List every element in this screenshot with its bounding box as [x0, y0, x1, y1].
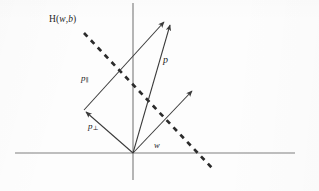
- vector-p-parallel-label-base: p: [81, 73, 86, 83]
- vector-p-perpendicular-label: p⊥: [88, 122, 99, 131]
- vector-w-label: w: [154, 141, 160, 150]
- axes-group: [15, 3, 295, 180]
- hyperplane-label-suffix: ): [73, 14, 76, 24]
- hyperplane-label-prefix: H(: [49, 14, 59, 24]
- vector-p-parallel-label: p∥: [81, 74, 89, 83]
- vector-p-perpendicular-label-subscript: ⊥: [93, 125, 99, 131]
- figure-canvas: [0, 0, 319, 191]
- vector-p-perpendicular: [86, 112, 133, 153]
- vector-p-perpendicular-label-base: p: [88, 121, 93, 131]
- vector-p-parallel-label-subscript: ∥: [86, 77, 89, 83]
- vector-p-parallel: [84, 22, 164, 110]
- vector-p-label: p: [163, 55, 168, 65]
- hyperplane-label: H(w,b): [49, 15, 76, 25]
- vector-decomposition-figure: H(w,b) p p∥ p⊥ w: [0, 0, 319, 191]
- vectors-group: [84, 22, 192, 153]
